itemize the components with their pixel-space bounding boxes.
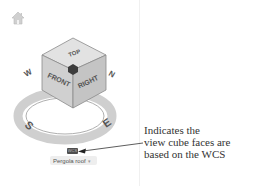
callout-line-3: based on the WCS <box>144 148 256 160</box>
callout-text: Indicates the view cube faces are based … <box>144 124 256 160</box>
panel-divider <box>139 0 140 186</box>
view-selector-label: Pergola roof <box>53 158 86 164</box>
view-selector-dropdown[interactable]: Pergola roof ▾ <box>50 156 97 165</box>
callout-line-2: view cube faces are <box>144 136 256 148</box>
chevron-down-icon: ▾ <box>88 158 91 164</box>
compass-west[interactable]: W <box>23 67 34 79</box>
callout-line-1: Indicates the <box>144 124 256 136</box>
wcs-badge[interactable]: WCS <box>67 148 78 154</box>
compass-north[interactable]: N <box>107 69 117 80</box>
